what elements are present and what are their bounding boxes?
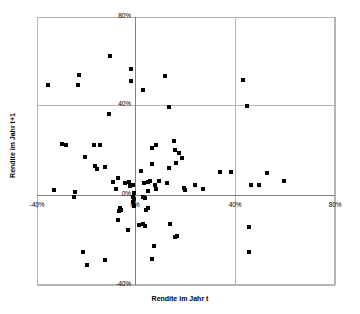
x-axis-title: Rendite im Jahr t [0,295,360,302]
data-point [167,105,171,109]
x-tick-label-neg40: -40% [18,201,56,208]
data-point [193,183,197,187]
data-point [114,187,118,191]
gridline-x-80 [335,17,336,285]
data-point [76,83,80,87]
data-point [183,188,187,192]
data-point [229,170,233,174]
data-point [180,156,184,160]
data-point [247,250,251,254]
data-point [129,67,133,71]
data-point [201,187,205,191]
gridline-y-neg40 [37,285,335,286]
data-point [247,225,251,229]
data-point [72,195,76,199]
data-point [116,218,120,222]
data-point [175,234,179,238]
data-point [152,244,156,248]
data-point [92,143,96,147]
data-point [83,155,87,159]
data-point [146,189,150,193]
scatter-chart: 80% 40% 0% -40% -40% 0% 40% 80% Rendite … [0,0,360,314]
data-point [154,187,158,191]
data-point [168,222,172,226]
data-point [154,143,158,147]
data-point [143,224,147,228]
data-point [143,196,147,200]
data-point [165,181,169,185]
data-point [172,139,176,143]
data-point [265,171,269,175]
data-point [73,190,77,194]
y-tick-label-80: 80% [98,12,131,19]
data-point [139,169,143,173]
gridline-x-neg40 [37,17,38,285]
y-tick-label-0: 0% [98,190,131,197]
data-point [111,180,115,184]
data-point [249,183,253,187]
data-point [141,88,145,92]
data-point [117,209,121,213]
data-point [218,170,222,174]
y-axis-title: Rendite im Jahr t+1 [9,86,16,206]
data-point [150,257,154,261]
data-point [257,183,261,187]
gridline-y-40 [37,105,335,106]
data-point [150,162,154,166]
data-point [77,73,81,77]
data-point [98,143,102,147]
x-axis-line [37,195,335,196]
data-point [177,151,181,155]
y-tick-label-40: 40% [98,100,131,107]
data-point [116,176,120,180]
data-point [245,104,249,108]
data-point [95,167,99,171]
data-point [167,166,171,170]
y-tick-label-neg40: -40% [98,280,131,287]
data-point [282,179,286,183]
x-tick-label-80: 80% [319,201,351,208]
y-axis-line [135,17,136,285]
data-point [163,74,167,78]
data-point [174,161,178,165]
data-point [103,258,107,262]
data-point [131,183,135,187]
data-point [46,83,50,87]
plot-area-frame [37,17,335,285]
gridline-x-40 [235,17,236,285]
data-point [107,112,111,116]
data-point [126,228,130,232]
data-point [108,54,112,58]
data-point [81,250,85,254]
data-point [52,188,56,192]
data-point [85,263,89,267]
data-point [241,78,245,82]
data-point [157,179,161,183]
x-tick-label-40: 40% [219,201,251,208]
data-point [132,204,136,208]
gridline-y-80 [37,17,335,18]
data-point [103,165,107,169]
data-point [148,179,152,183]
data-point [64,143,68,147]
data-point [144,208,148,212]
data-point [129,79,133,83]
